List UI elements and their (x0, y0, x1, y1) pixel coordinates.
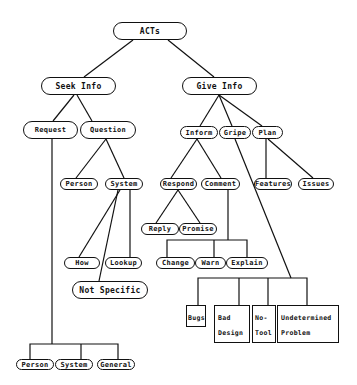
node-bugs: Bugs (186, 305, 206, 327)
node-request-system: System (55, 359, 93, 370)
node-request-person: Person (16, 359, 54, 370)
node-acts: ACTs (113, 22, 187, 40)
node-promise: Promise (179, 223, 217, 235)
node-lookup: Lookup (105, 257, 142, 269)
node-question: Question (80, 121, 136, 139)
node-change: Change (156, 257, 195, 269)
node-issues: Issues (298, 178, 334, 190)
node-undetermined-problem: Undetermined Problem (277, 305, 339, 343)
node-no-tool: No-Tool (252, 305, 276, 343)
node-respond: Respond (160, 178, 197, 190)
node-inform: Inform (180, 126, 218, 139)
node-reply: Reply (141, 223, 179, 235)
node-question-system: System (105, 178, 143, 190)
node-give-info: Give Info (182, 77, 257, 95)
node-warn: Warn (195, 257, 226, 269)
node-plan: Plan (252, 126, 283, 139)
node-features: Features (254, 178, 292, 190)
node-question-person: Person (60, 178, 98, 190)
node-seek-info: Seek Info (41, 77, 116, 95)
node-explain: Explain (226, 257, 268, 269)
node-request-general: General (97, 359, 135, 370)
acts-taxonomy-diagram: ACTs Seek Info Give Info Request Questio… (0, 0, 357, 385)
node-gripe: Gripe (219, 126, 251, 139)
node-how: How (64, 257, 100, 269)
node-comment: Comment (201, 178, 240, 190)
node-not-specific: Not Specific (72, 281, 148, 299)
node-bad-design: Bad Design (214, 305, 250, 343)
node-request: Request (23, 121, 78, 139)
